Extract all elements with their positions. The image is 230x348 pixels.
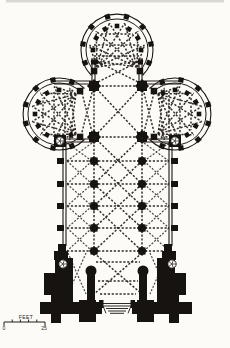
facade-tower <box>137 300 154 322</box>
floor-plan-figure: FEET 0 25 <box>0 0 230 348</box>
facade-tower <box>79 300 96 322</box>
left-transept-apse <box>23 77 85 151</box>
westwork-ribs <box>94 253 142 294</box>
floor-plan-drawing: FEET 0 25 <box>0 0 230 348</box>
aisle-ribs <box>67 143 169 251</box>
respond-pier <box>87 270 95 304</box>
nave <box>57 137 178 256</box>
west-tower-arm <box>44 273 56 295</box>
stair-turret <box>59 260 67 268</box>
crossing-pier <box>87 79 101 93</box>
stair-turret <box>169 135 181 147</box>
stair-turret <box>168 260 176 268</box>
scale-unit-label: FEET <box>19 314 33 320</box>
westwork <box>40 244 192 323</box>
west-tower-arm <box>174 273 186 295</box>
stair-turret <box>54 135 66 147</box>
portal-jamb <box>131 300 136 308</box>
westwork-step <box>58 244 66 252</box>
entrance-steps <box>102 304 132 314</box>
scan-artifact <box>6 0 224 2</box>
scale-end-label: 25 <box>41 325 47 331</box>
respond-pier <box>139 270 147 304</box>
scale-start-label: 0 <box>3 325 6 331</box>
crossing-pier <box>135 79 149 93</box>
scale-bar: FEET 0 25 <box>3 314 47 331</box>
choir-apse <box>80 14 154 84</box>
westwork-step <box>164 244 172 252</box>
scale-ruler <box>4 320 45 327</box>
portal-jamb <box>99 300 104 308</box>
